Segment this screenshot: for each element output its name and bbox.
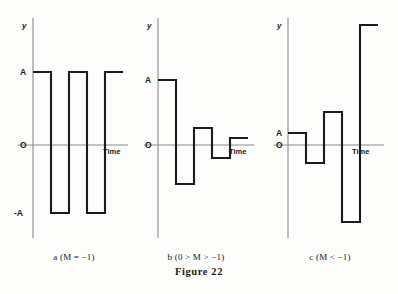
figure-number-label: Figure 22: [150, 266, 248, 277]
panel-b-tick-zero: O: [145, 140, 152, 150]
panel-c-tick-positive: A: [276, 128, 282, 138]
panel-a-waveform: [33, 72, 123, 213]
panel-a: y A O -A Time: [14, 18, 128, 238]
panel-c-waveform: [288, 25, 378, 222]
panel-a-tick-positive: A: [20, 67, 26, 77]
panel-a-y-axis-label: y: [21, 21, 27, 30]
panel-c-x-axis-label: Time: [352, 147, 369, 156]
panel-a-tick-zero: O: [20, 140, 27, 150]
panel-c-y-axis-label: y: [276, 21, 282, 30]
panel-a-x-axis-label: Time: [103, 147, 120, 156]
panel-b-tick-positive: A: [145, 75, 151, 85]
panel-c-caption: c (M < −1): [282, 252, 378, 262]
panel-b-waveform: [158, 80, 248, 184]
panel-c: y A O Time: [274, 18, 384, 238]
panel-a-caption: a (M = −1): [26, 252, 122, 262]
figure-container: y A O -A Time y A O Time y A O Time: [0, 0, 398, 294]
panel-b-x-axis-label: Time: [229, 147, 246, 156]
panel-c-tick-zero: O: [276, 140, 283, 150]
panel-b-y-axis-label: y: [146, 21, 152, 30]
panel-b-caption: b (0 > M > −1): [142, 252, 250, 262]
panel-b: y A O Time: [144, 18, 254, 238]
panel-a-tick-negative: -A: [14, 208, 23, 218]
figure-22-plot: y A O -A Time y A O Time y A O Time: [0, 0, 398, 294]
